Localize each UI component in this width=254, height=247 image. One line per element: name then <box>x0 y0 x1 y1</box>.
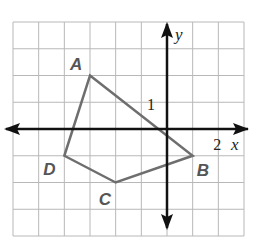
y-axis-label: y <box>173 25 183 44</box>
y-tick-label: 1 <box>147 96 155 113</box>
vertex-label-a: A <box>69 55 82 74</box>
x-axis-label: x <box>230 135 239 154</box>
vertex-label-b: B <box>197 161 209 180</box>
x-tick-label: 2 <box>213 136 221 153</box>
axes <box>4 22 249 230</box>
vertex-label-c: C <box>99 190 112 209</box>
vertex-label-d: D <box>43 160 55 179</box>
coordinate-plane-figure: y x 2 1 A B C D <box>0 0 254 247</box>
